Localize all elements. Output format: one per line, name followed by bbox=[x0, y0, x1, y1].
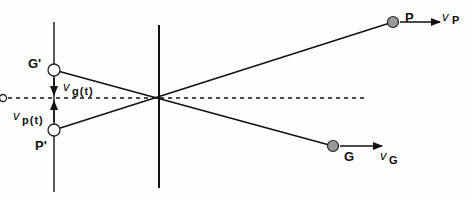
origin-point bbox=[0, 95, 7, 102]
ray-P bbox=[54, 22, 393, 130]
diagram-graphics bbox=[0, 0, 471, 201]
point-P bbox=[388, 17, 399, 28]
label-P-prime: P' bbox=[35, 139, 47, 152]
label-vG-v: v bbox=[380, 149, 387, 162]
label-vP-sub: P bbox=[452, 15, 460, 26]
point-G bbox=[328, 141, 339, 152]
label-vP-v: v bbox=[442, 10, 449, 23]
projection-diagram: P v P G v G G' P' v g(t) v p(t) bbox=[0, 0, 471, 201]
point-P-prime bbox=[48, 124, 60, 136]
label-vp-sub: p(t) bbox=[22, 115, 44, 126]
label-vg-v: v bbox=[63, 80, 70, 93]
label-P: P bbox=[405, 11, 414, 24]
label-G-prime: G' bbox=[28, 57, 41, 70]
label-vp-v: v bbox=[13, 109, 20, 122]
ray-G bbox=[54, 70, 333, 146]
label-vG-sub: G bbox=[389, 155, 399, 166]
label-vg-sub: g(t) bbox=[72, 86, 94, 97]
label-G: G bbox=[344, 150, 354, 163]
point-G-prime bbox=[48, 64, 60, 76]
